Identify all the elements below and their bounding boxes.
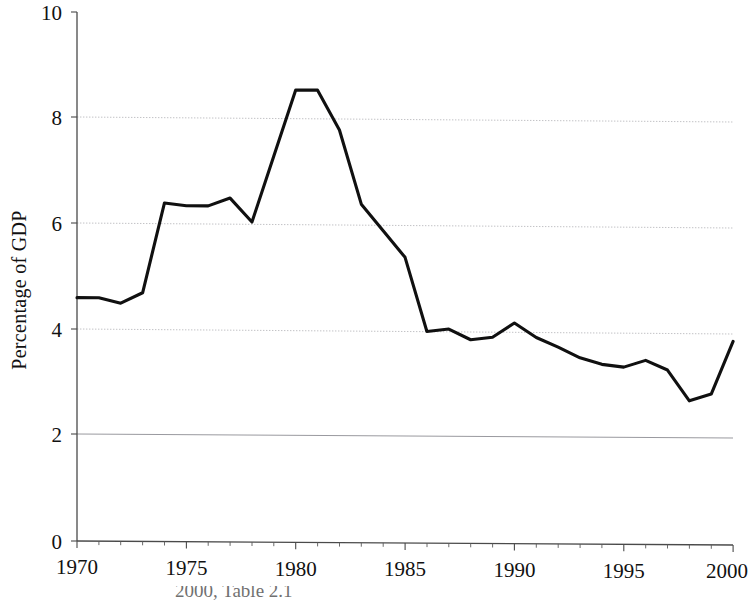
y-tick-label-10: 10 (41, 1, 62, 25)
x-tick-label-1980: 1980 (275, 557, 317, 581)
gridline-2 (77, 434, 733, 438)
x-tick-label-2000: 2000 (706, 559, 748, 583)
x-tick-label-1970: 1970 (56, 555, 98, 579)
x-tick-label-1995: 1995 (603, 559, 645, 583)
line-chart-plot: 10 8 6 4 2 0 Percentage of GDP (0, 0, 750, 601)
y-tick-label-8: 8 (52, 106, 63, 130)
y-tick-label-2: 2 (52, 423, 63, 447)
x-tick-label-1985: 1985 (384, 557, 426, 581)
y-tick-label-6: 6 (52, 212, 63, 236)
chart-figure: 10 8 6 4 2 0 Percentage of GDP (0, 0, 750, 601)
figure-caption-text: 2000, Table 2.1 (175, 586, 293, 601)
y-axis-title: Percentage of GDP (8, 210, 31, 370)
figure-caption: 2000, Table 2.1 (0, 586, 750, 601)
x-tick-label-1990: 1990 (493, 558, 535, 582)
data-series-line (77, 90, 733, 401)
gridline-6 (77, 223, 733, 228)
y-tick-label-0: 0 (52, 530, 63, 554)
gridlines (77, 117, 733, 438)
y-axis-ticks (71, 12, 77, 541)
y-axis-tick-labels: 10 8 6 4 2 0 (41, 1, 63, 554)
x-axis-tick-labels: 1970 1975 1980 1985 1990 1995 2000 (56, 555, 748, 583)
x-tick-label-1975: 1975 (165, 556, 207, 580)
y-tick-label-4: 4 (52, 318, 63, 342)
axes-lines (77, 12, 733, 545)
gridline-8 (77, 117, 733, 122)
gridline-4 (77, 329, 733, 334)
